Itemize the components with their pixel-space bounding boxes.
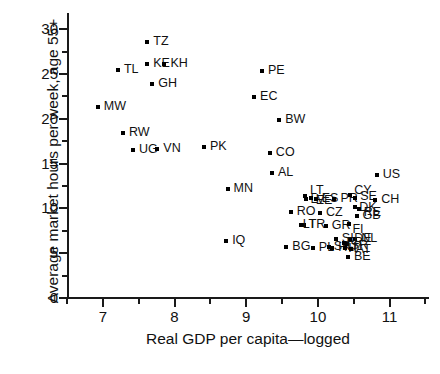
data-point-marker xyxy=(277,118,281,122)
data-point-marker xyxy=(346,255,350,259)
data-point-label: GB xyxy=(363,209,381,221)
data-point-marker xyxy=(202,145,206,149)
x-tick-minor xyxy=(353,299,355,304)
data-point-label: KH xyxy=(170,57,187,69)
x-tick-major xyxy=(317,299,319,307)
x-tick-major xyxy=(389,299,391,307)
data-point-marker xyxy=(155,147,159,151)
y-tick-minor xyxy=(62,51,67,53)
data-point-marker xyxy=(289,210,293,214)
data-point-marker xyxy=(347,222,351,226)
data-point-marker xyxy=(145,40,149,44)
data-point-label: IQ xyxy=(232,234,245,246)
data-point-label: BE xyxy=(354,250,371,262)
x-axis-title: Real GDP per capita—logged xyxy=(67,330,429,348)
data-point-label: VN xyxy=(163,142,180,154)
y-axis-line xyxy=(67,13,69,298)
x-tick-minor xyxy=(66,299,68,304)
x-tick-minor xyxy=(281,299,283,304)
data-point-label: EC xyxy=(260,90,277,102)
data-point-marker xyxy=(145,62,149,66)
data-point-marker xyxy=(348,193,352,197)
data-point-marker xyxy=(357,207,361,211)
data-point-marker xyxy=(116,68,120,72)
data-point-marker xyxy=(268,151,272,155)
data-point-marker xyxy=(303,194,307,198)
data-point-label: BW xyxy=(285,113,305,125)
data-point-label: PE xyxy=(268,64,285,76)
data-point-label: TZ xyxy=(153,35,168,47)
data-point-label: CO xyxy=(276,146,295,158)
data-point-label: CZ xyxy=(326,206,343,218)
y-tick-minor xyxy=(62,95,67,97)
data-point-marker xyxy=(332,197,336,201)
data-point-marker xyxy=(314,197,318,201)
data-point-marker xyxy=(270,171,274,175)
y-tick-minor xyxy=(62,140,67,142)
data-point-label: TL xyxy=(124,63,139,75)
x-tick-minor xyxy=(138,299,140,304)
data-point-label: CH xyxy=(381,193,399,205)
data-point-label: BG xyxy=(292,240,310,252)
x-tick-label: 9 xyxy=(231,309,261,324)
data-point-marker xyxy=(349,247,353,251)
x-tick-major xyxy=(174,299,176,307)
x-tick-minor xyxy=(424,299,426,304)
data-point-marker xyxy=(334,237,338,241)
data-point-marker xyxy=(343,246,347,250)
data-point-label: LT xyxy=(303,218,317,230)
x-axis-line xyxy=(67,297,429,299)
data-point-marker xyxy=(318,211,322,215)
data-point-marker xyxy=(353,196,357,200)
data-point-label: GH xyxy=(158,77,177,89)
data-point-marker xyxy=(224,239,228,243)
data-point-label: MW xyxy=(104,100,126,112)
data-point-marker xyxy=(121,131,125,135)
data-point-marker xyxy=(375,173,379,177)
data-point-marker xyxy=(324,224,328,228)
data-point-marker xyxy=(311,246,315,250)
y-axis-title: Average market hours per week, age 55+ xyxy=(44,11,62,311)
data-point-label: MN xyxy=(234,182,253,194)
data-point-marker xyxy=(309,196,313,200)
data-point-marker xyxy=(226,187,230,191)
data-point-marker xyxy=(96,105,100,109)
data-point-marker xyxy=(162,62,166,66)
data-point-marker xyxy=(260,69,264,73)
data-point-marker xyxy=(150,82,154,86)
data-point-marker xyxy=(355,214,359,218)
x-tick-major xyxy=(245,299,247,307)
data-point-marker xyxy=(330,246,334,250)
x-tick-minor xyxy=(209,299,211,304)
x-tick-major xyxy=(102,299,104,307)
y-tick-minor xyxy=(62,230,67,232)
data-point-label: AL xyxy=(278,166,293,178)
data-point-label: PK xyxy=(210,140,227,152)
x-tick-label: 8 xyxy=(160,309,190,324)
x-tick-label: 11 xyxy=(375,309,405,324)
y-tick-minor xyxy=(62,275,67,277)
data-point-label: US xyxy=(383,168,400,180)
scatter-plot-figure: 0510152025307891011 TZKEKHTLGHMWRWUGVNPK… xyxy=(0,0,440,374)
y-tick-minor xyxy=(62,185,67,187)
data-point-marker xyxy=(284,245,288,249)
x-tick-label: 7 xyxy=(88,309,118,324)
data-point-marker xyxy=(252,95,256,99)
data-point-label: RO xyxy=(297,205,316,217)
data-point-label: RW xyxy=(129,126,150,138)
data-point-marker xyxy=(131,148,135,152)
x-tick-label: 10 xyxy=(303,309,333,324)
